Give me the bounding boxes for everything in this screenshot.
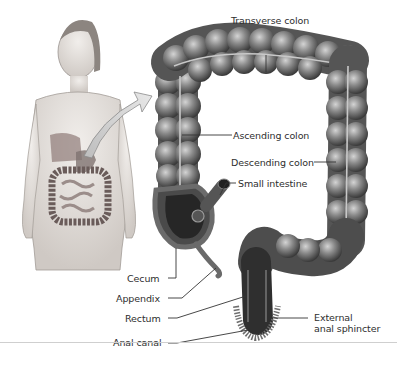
label-rectum: Rectum	[125, 313, 161, 324]
label-appendix: Appendix	[116, 293, 160, 304]
label-descending-colon: Descending colon	[231, 157, 314, 168]
label-external-anal-sphincter-line1: External	[314, 312, 353, 323]
label-external-anal-sphincter-line2: anal sphincter	[314, 323, 380, 334]
bottom-divider	[0, 342, 397, 343]
label-transverse-colon: Transverse colon	[231, 15, 309, 26]
label-cecum: Cecum	[127, 273, 159, 284]
label-ascending-colon: Ascending colon	[233, 130, 309, 141]
human-figure	[22, 20, 135, 270]
label-small-intestine: Small intestine	[238, 178, 307, 189]
